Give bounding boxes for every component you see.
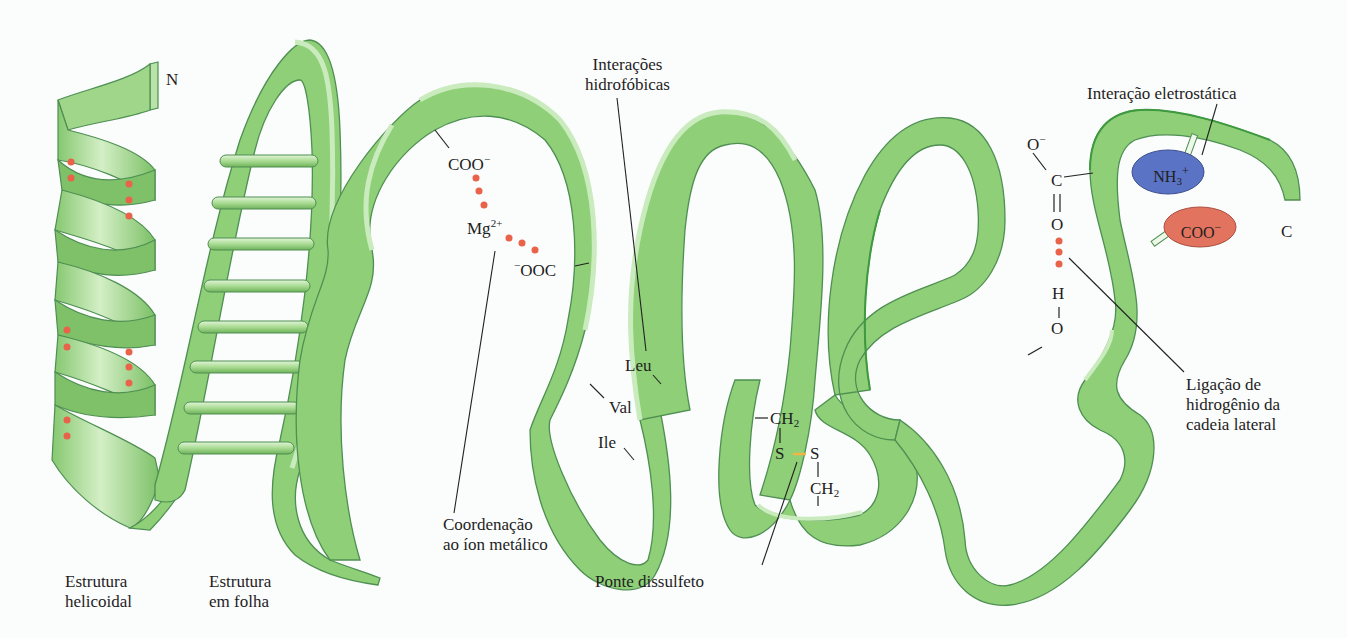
metal-coordination-label: Coordenação ao íon metálico xyxy=(443,515,548,555)
n-terminus-label: N xyxy=(166,70,178,90)
oxygen-double-label: O xyxy=(1051,216,1063,234)
ch2-bottom-label: CH2 xyxy=(810,480,839,502)
c-terminus-label: C xyxy=(1281,222,1292,242)
isoleucine-label: Ile xyxy=(598,434,616,452)
sulfur-left-label: S xyxy=(775,445,784,463)
sheet-label: Estrutura em folha xyxy=(209,572,271,612)
hydrogen-bond-label: Ligação de hidrogênio da cadeia lateral xyxy=(1186,375,1280,435)
carboxylate-salt-label: COO− xyxy=(1165,218,1237,242)
ch2-top-label: CH2 xyxy=(770,410,799,432)
oxygen-minus-label: O− xyxy=(1027,130,1046,154)
carboxylate-1-label: COO− xyxy=(448,150,490,174)
sulfur-right-label: S xyxy=(810,445,819,463)
ammonium-label: NH3+ xyxy=(1138,162,1204,190)
side-chain-hbond-dots xyxy=(1056,238,1063,268)
valine-label: Val xyxy=(609,399,632,417)
helix-label: Estrutura helicoidal xyxy=(65,572,132,612)
carboxylate-2-label: −OOC xyxy=(514,256,556,280)
disulfide-label: Ponte dissulfeto xyxy=(595,572,704,592)
side-chain-hbond-loop-ribbon xyxy=(895,110,1300,605)
leucine-label: Leu xyxy=(625,357,651,375)
carbon-label: C xyxy=(1051,172,1062,190)
electrostatic-label: Interação eletrostática xyxy=(1087,84,1237,104)
hydrogen-label: H xyxy=(1052,285,1064,303)
twisted-loop-ribbon xyxy=(828,118,1005,440)
hydrophobic-label: Interações hidrofóbicas xyxy=(585,55,670,95)
magnesium-ion-label: Mg2+ xyxy=(467,214,502,238)
oxygen-bottom-label: O xyxy=(1051,320,1063,338)
